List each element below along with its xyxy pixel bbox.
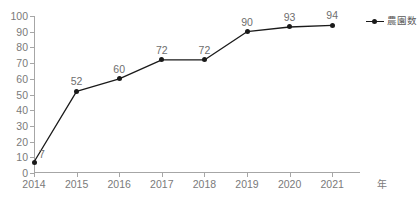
series-line <box>0 0 419 205</box>
data-point-label: 90 <box>234 17 260 28</box>
data-point-label: 52 <box>64 76 90 87</box>
data-point-marker <box>330 23 335 28</box>
data-point-label: 72 <box>191 45 217 56</box>
data-point-label: 60 <box>106 64 132 75</box>
line-dot-marker-icon <box>366 18 384 25</box>
data-point-marker <box>245 29 250 34</box>
data-point-label: 7 <box>29 149 55 160</box>
data-point-marker <box>32 160 37 165</box>
data-point-marker <box>74 89 79 94</box>
legend: 農園数 <box>366 16 417 26</box>
data-point-label: 94 <box>319 10 345 21</box>
legend-item-label: 農園数 <box>387 16 417 26</box>
data-point-label: 93 <box>277 12 303 23</box>
line-chart: 0102030405060708090100 20142015201620172… <box>0 0 419 205</box>
data-point-label: 72 <box>149 45 175 56</box>
